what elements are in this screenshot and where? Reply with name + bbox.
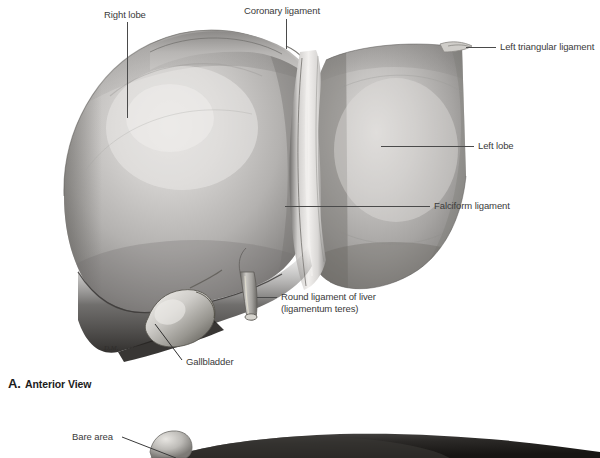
label-round-ligament-line2: (ligamentum teres) — [281, 303, 376, 315]
figure-caption: A. Anterior View — [8, 374, 91, 392]
label-coronary-ligament: Coronary ligament — [244, 5, 320, 17]
figure-caption-text: Anterior View — [25, 378, 91, 390]
label-left-lobe: Left lobe — [478, 140, 514, 152]
label-left-triangular-ligament: Left triangular ligament — [500, 41, 594, 53]
label-falciform-ligament: Falciform ligament — [434, 200, 510, 212]
label-round-ligament-of-liver: Round ligament of liver (ligamentum tere… — [281, 291, 376, 315]
label-round-ligament-line1: Round ligament of liver — [281, 291, 376, 302]
artist-monogram: D.M. — [103, 344, 119, 352]
left-lobe-shape — [296, 36, 488, 314]
figure-caption-letter: A. — [8, 376, 21, 391]
label-gallbladder: Gallbladder — [186, 356, 234, 368]
bottom-figure-shape — [140, 431, 600, 458]
label-bare-area: Bare area — [72, 431, 113, 443]
figure-canvas: D.M. Right lobe Coronary ligament — [0, 0, 600, 458]
label-right-lobe: Right lobe — [104, 9, 146, 21]
